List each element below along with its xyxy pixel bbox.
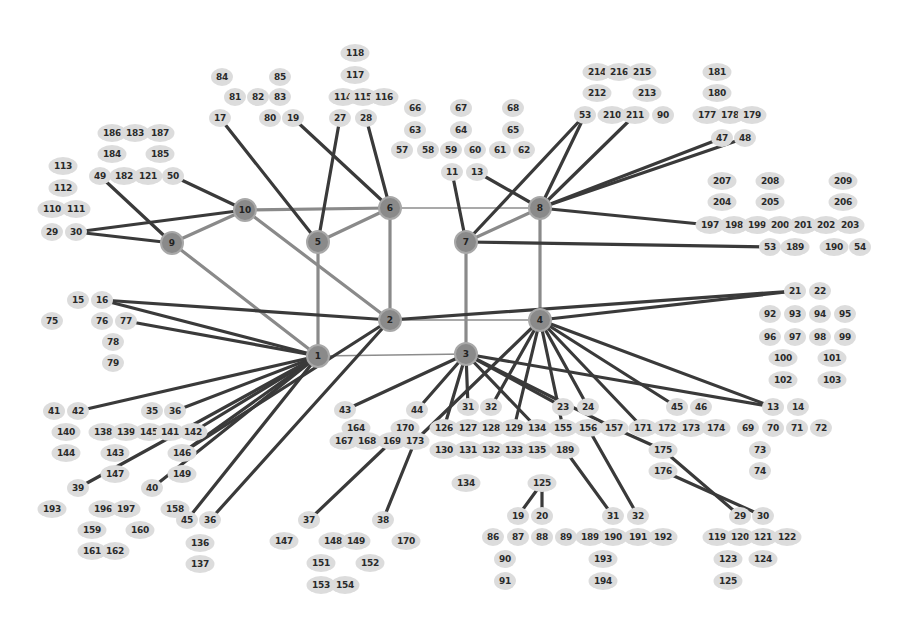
leaf-node-label: 115	[354, 92, 372, 102]
leaf-node-label: 122	[778, 532, 796, 542]
leaf-node-label: 149	[347, 536, 365, 546]
leaf-node-label: 216	[610, 67, 628, 77]
leaf-node: 111	[62, 200, 91, 218]
leaf-node: 80	[259, 109, 281, 127]
leaf-node: 46	[690, 398, 712, 416]
leaf-node-label: 196	[94, 504, 112, 514]
leaf-node-label: 28	[360, 113, 372, 123]
hub-node: 8	[529, 197, 551, 219]
leaf-node: 147	[270, 532, 299, 550]
leaf-node-label: 170	[396, 423, 414, 433]
leaf-node-label: 69	[742, 423, 754, 433]
leaf-node: 36	[164, 402, 186, 420]
leaf-node: 151	[307, 554, 336, 572]
leaf-node-label: 124	[754, 554, 772, 564]
leaf-node-label: 20	[536, 511, 548, 521]
hub-node-label: 1	[315, 351, 321, 361]
hub-edge	[466, 208, 540, 242]
leaf-node: 189	[781, 238, 810, 256]
leaf-edge	[491, 320, 540, 407]
leaf-node: 38	[372, 511, 394, 529]
leaf-node: 190	[599, 528, 628, 546]
leaf-edge	[76, 232, 172, 243]
leaf-node-label: 127	[459, 423, 477, 433]
leaf-node: 20	[531, 507, 553, 525]
leaf-node: 35	[141, 402, 163, 420]
leaf-node-label: 157	[605, 423, 623, 433]
hub-node: 6	[379, 197, 401, 219]
leaf-edge	[663, 450, 740, 516]
leaf-node-label: 24	[582, 402, 594, 412]
leaf-node-label: 63	[409, 125, 421, 135]
leaf-node-label: 148	[324, 536, 342, 546]
leaf-node-label: 189	[786, 242, 804, 252]
leaf-node: 142	[179, 423, 208, 441]
leaf-node: 162	[101, 542, 130, 560]
leaf-node-label: 203	[841, 220, 859, 230]
leaf-node-label: 202	[817, 220, 835, 230]
leaf-node: 88	[531, 528, 553, 546]
leaf-node-label: 143	[106, 448, 124, 458]
leaf-node-label: 169	[383, 436, 401, 446]
leaf-node-label: 102	[774, 375, 792, 385]
leaf-edge	[293, 118, 390, 208]
leaf-node: 19	[507, 507, 529, 525]
leaf-node: 30	[752, 507, 774, 525]
leaf-node-label: 58	[422, 145, 434, 155]
leaf-node: 49	[89, 167, 111, 185]
leaf-node: 30	[65, 223, 87, 241]
leaf-edge	[100, 176, 172, 243]
leaf-node-label: 67	[455, 103, 467, 113]
leaf-node-label: 170	[397, 536, 415, 546]
leaf-node-label: 29	[46, 227, 58, 237]
hub-node: 4	[529, 309, 551, 331]
leaf-node-label: 94	[814, 309, 826, 319]
leaf-node-label: 76	[96, 316, 108, 326]
leaf-node-label: 142	[184, 427, 202, 437]
leaf-node: 183	[121, 124, 150, 142]
leaf-node-label: 17	[214, 113, 226, 123]
leaf-node-label: 13	[767, 402, 779, 412]
leaf-node-label: 179	[743, 110, 761, 120]
leaf-node-label: 111	[67, 204, 85, 214]
leaf-node: 16	[91, 291, 113, 309]
leaf-node: 135	[523, 441, 552, 459]
leaf-node-label: 91	[499, 576, 511, 586]
leaf-node: 29	[41, 223, 63, 241]
leaf-node-label: 141	[161, 427, 179, 437]
leaf-node: 113	[49, 157, 78, 175]
leaf-node: 212	[583, 84, 612, 102]
leaf-node: 17	[209, 109, 231, 127]
leaf-node: 179	[738, 106, 767, 124]
leaf-node-label: 21	[789, 286, 801, 296]
leaf-node-label: 45	[671, 402, 683, 412]
network-graph-svg: 1181171141151162728848581828317801966676…	[0, 0, 907, 634]
leaf-node: 94	[809, 305, 831, 323]
leaf-node: 193	[38, 500, 67, 518]
leaf-node: 67	[450, 99, 472, 117]
leaf-node-label: 144	[57, 448, 75, 458]
leaf-node: 203	[836, 216, 865, 234]
leaf-node-label: 209	[834, 176, 852, 186]
leaf-node: 174	[702, 419, 731, 437]
leaf-node-label: 83	[274, 92, 286, 102]
leaf-node-label: 73	[754, 445, 766, 455]
hub-node-label: 6	[387, 203, 393, 213]
leaf-node-label: 183	[126, 128, 144, 138]
leaf-node-label: 38	[377, 515, 389, 525]
leaf-node-label: 212	[588, 88, 606, 98]
leaf-node-label: 187	[151, 128, 169, 138]
leaf-node: 83	[269, 88, 291, 106]
leaf-node: 192	[649, 528, 678, 546]
leaf-node: 19	[282, 109, 304, 127]
leaf-node-label: 50	[167, 171, 179, 181]
leaf-node: 45	[176, 511, 198, 529]
leaf-node-label: 201	[794, 220, 812, 230]
leaf-node-label: 167	[335, 436, 353, 446]
leaf-node: 62	[513, 141, 535, 159]
hub-node-label: 7	[463, 237, 469, 247]
leaf-node-label: 62	[518, 145, 530, 155]
leaf-node-label: 145	[140, 427, 158, 437]
leaf-edge	[390, 291, 795, 320]
leaf-node: 77	[115, 312, 137, 330]
